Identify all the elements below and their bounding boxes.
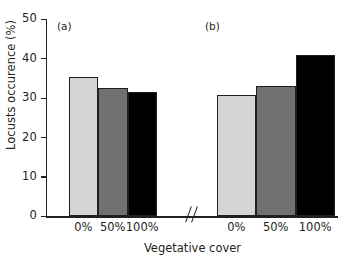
bar-chart-figure: 01020304050 Locusts occurence (%) 0%50%1… [0,0,345,261]
bar [217,95,257,216]
x-axis-tick-label: 100% [120,221,164,233]
x-axis-tick-label: 0% [214,221,258,233]
panel-label: (a) [57,20,72,32]
bar [98,88,128,216]
x-axis-tick-label: 50% [254,221,298,233]
bar [69,77,99,217]
bar [296,55,336,217]
bars-layer [0,0,345,217]
x-axis-title: Vegetative cover [47,241,338,255]
axis-break-icon [182,204,204,226]
x-axis-tick-label: 100% [293,221,337,233]
bar [128,92,158,216]
bar [256,86,296,216]
panel-label: (b) [205,20,220,32]
